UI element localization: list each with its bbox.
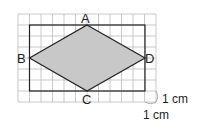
rhombus-abcd (30, 25, 146, 91)
label-b: B (17, 51, 26, 66)
rhombus-diagram: A B C D 1 cm 1 cm (0, 0, 207, 128)
label-c: C (82, 92, 91, 107)
label-a: A (81, 11, 90, 26)
scale-vertical: 1 cm (143, 108, 169, 122)
scale-horizontal: 1 cm (162, 92, 188, 106)
label-d: D (145, 51, 154, 66)
